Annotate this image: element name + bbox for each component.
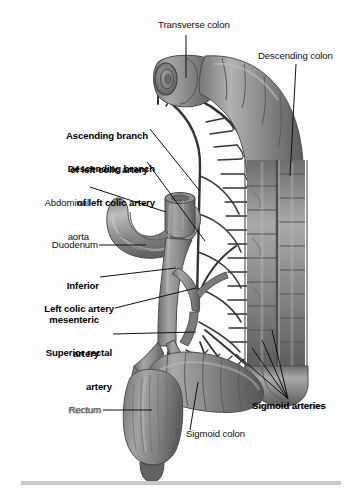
label-descending-branch-line1: Descending branch (0, 163, 155, 174)
label-abdominal-aorta-line1: Abdominal (0, 197, 89, 208)
footer-divider (21, 481, 341, 485)
leader-ascending-branch (150, 129, 199, 190)
label-left-colic-artery: Left colic artery (0, 303, 114, 314)
label-sigmoid-arteries: Sigmoid arteries (252, 400, 326, 411)
label-superior-rectal-artery: Superior rectal artery (0, 325, 112, 415)
label-transverse-colon: Transverse colon (158, 19, 230, 30)
label-descending-colon: Descending colon (258, 50, 333, 61)
label-duodenum: Duodenum (0, 239, 98, 250)
label-sigmoid-colon: Sigmoid colon (186, 428, 245, 439)
leader-superior-rectal-artery (113, 332, 196, 334)
leader-left-colic-artery (115, 288, 196, 308)
background-artifact (132, 466, 302, 478)
label-superior-rectal-line2: artery (0, 381, 112, 392)
label-superior-rectal-line1: Superior rectal (0, 347, 112, 358)
anatomy-figure: Transverse colon Descending colon Ascend… (0, 0, 361, 495)
label-ascending-branch-line1: Ascending branch (0, 130, 148, 141)
descending-colon-structure (247, 160, 305, 372)
label-ima-line1: Inferior (0, 280, 99, 291)
splenic-flexure (199, 56, 303, 176)
label-abdominal-aorta: Abdominal aorta (0, 175, 89, 265)
label-ima-line2: mesenteric (0, 314, 99, 325)
label-rectum: Rectum (0, 404, 101, 415)
